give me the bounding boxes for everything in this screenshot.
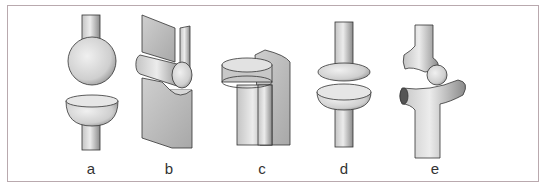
- label-d: d: [334, 160, 354, 177]
- joint-e-saddle: [400, 25, 466, 158]
- label-a: a: [81, 160, 101, 177]
- joint-d-ellipsoid: [317, 22, 371, 147]
- label-c: c: [252, 160, 272, 177]
- joint-b-hinge: [136, 15, 192, 148]
- label-b: b: [159, 160, 179, 177]
- joint-a-ball-and-socket: [66, 15, 118, 150]
- joint-c-pivot: [222, 50, 290, 145]
- label-e: e: [425, 160, 445, 177]
